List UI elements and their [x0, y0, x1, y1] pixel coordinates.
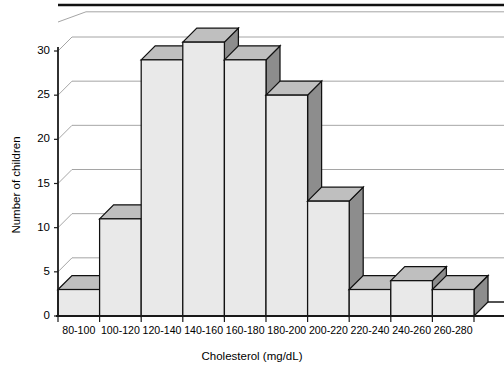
bar-260-280 [432, 276, 488, 317]
x-tick-label-100-120: 100-120 [101, 324, 140, 336]
y-tick-label-15: 15 [37, 177, 50, 189]
x-tick-label-80-100: 80-100 [62, 324, 95, 336]
x-tick-label-200-220: 200-220 [309, 324, 348, 336]
x-axis-title: Cholesterol (mg/dL) [202, 350, 303, 362]
y-tick-label-10: 10 [37, 221, 50, 233]
bar-front-220-240 [349, 290, 391, 317]
bars-group [58, 28, 488, 316]
x-tick-label-240-260: 240-260 [392, 324, 431, 336]
bar-front-160-180 [224, 60, 266, 316]
x-tick-labels: 80-100100-120120-140140-160160-180180-20… [62, 324, 472, 336]
bar-front-100-120 [100, 219, 142, 316]
y-axis-title: Number of children [10, 136, 22, 233]
y-tick-label-30: 30 [37, 44, 50, 56]
bar-front-200-220 [308, 201, 350, 316]
gridline-top [58, 12, 504, 22]
bar-front-240-260 [391, 281, 433, 316]
x-tick-label-180-200: 180-200 [267, 324, 306, 336]
x-tick-label-120-140: 120-140 [143, 324, 182, 336]
chart-canvas: 051015202530 80-100100-120120-140140-160… [0, 0, 504, 366]
x-tick-label-260-280: 260-280 [434, 324, 473, 336]
y-tick-label-20: 20 [37, 132, 50, 144]
bar-front-260-280 [432, 290, 474, 317]
bar-front-140-160 [183, 42, 225, 316]
y-tick-label-5: 5 [44, 265, 50, 277]
bar-front-180-200 [266, 95, 308, 316]
y-tick-label-25: 25 [37, 88, 50, 100]
bar-front-120-140 [141, 60, 183, 316]
histogram-chart: 051015202530 80-100100-120120-140140-160… [0, 0, 504, 366]
gridline-30 [58, 37, 504, 51]
y-tick-label-0: 0 [44, 309, 50, 321]
y-tick-labels: 051015202530 [37, 44, 50, 321]
x-tick-label-140-160: 140-160 [184, 324, 223, 336]
bar-front-80-100 [58, 290, 100, 317]
x-tick-label-160-180: 160-180 [226, 324, 265, 336]
x-tick-label-220-240: 220-240 [351, 324, 390, 336]
